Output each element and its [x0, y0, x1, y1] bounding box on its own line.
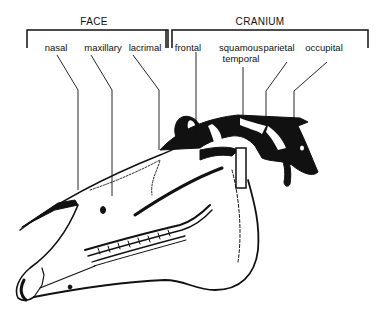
label-occupital: occupital — [305, 42, 343, 53]
skull-diagram: FACE CRANIUM nasal maxillary lacrimal fr… — [0, 0, 382, 322]
leader-parietal — [266, 62, 287, 118]
label-temporal: temporal — [219, 53, 263, 64]
label-maxillary: maxillary — [84, 42, 121, 53]
label-lacrimal: lacrimal — [129, 42, 162, 53]
face-heading: FACE — [80, 16, 107, 27]
cranium-drawing — [160, 113, 318, 188]
leader-occupital — [294, 62, 327, 120]
leader-lacrimal — [133, 55, 159, 150]
mandible-outline — [34, 180, 258, 297]
zygomatic-arch — [200, 147, 238, 160]
label-parietal: parietal — [263, 42, 294, 53]
cranium-heading: CRANIUM — [236, 16, 285, 27]
skull-drawing — [17, 118, 259, 300]
leader-nasal — [57, 55, 78, 190]
label-frontal: frontal — [175, 42, 201, 53]
leader-maxillary — [91, 55, 112, 196]
label-nasal: nasal — [45, 42, 68, 53]
label-squamous: squamous — [219, 42, 263, 53]
facial-crest — [135, 168, 222, 215]
label-squamous-temporal: squamous temporal — [219, 42, 263, 64]
